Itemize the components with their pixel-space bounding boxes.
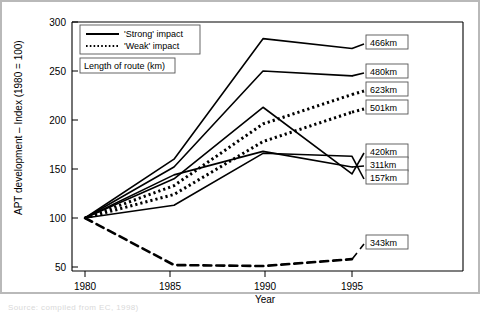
line-chart-svg: 300 250 200 150 100 50 APT development –…	[0, 0, 481, 315]
series-label-text-623km: 623km	[370, 85, 397, 95]
series-label-text-343km: 343km	[370, 238, 397, 248]
legend-length-of-route: Length of route (km)	[80, 58, 175, 73]
series-label-text-466km: 466km	[370, 38, 397, 48]
x-tick-label-1990: 1990	[254, 281, 277, 292]
y-tick-label-50: 50	[55, 262, 67, 273]
series-label-text-480km: 480km	[370, 67, 397, 77]
x-tick-label-1995: 1995	[341, 281, 364, 292]
series-label-text-157km: 157km	[370, 173, 397, 183]
y-axis-title: APT development – Index (1980 = 100)	[13, 40, 24, 215]
x-axis-title: Year	[255, 294, 276, 305]
y-tick-label-100: 100	[49, 213, 66, 224]
series-label-text-501km: 501km	[370, 103, 397, 113]
series-label-text-420km: 420km	[370, 147, 397, 157]
x-tick-label-1980: 1980	[74, 281, 97, 292]
figure-caption: Source: compiled from EC, 1998)	[8, 303, 139, 312]
y-tick-label-150: 150	[49, 164, 66, 175]
legend-impact: 'Strong' impact 'Weak' impact	[80, 25, 200, 54]
x-tick-label-1985: 1985	[159, 281, 182, 292]
series-label-text-311km: 311km	[370, 160, 396, 170]
legend-label-length: Length of route (km)	[84, 61, 165, 71]
y-tick-label-200: 200	[49, 115, 66, 126]
y-tick-label-250: 250	[49, 66, 66, 77]
legend-label-strong: 'Strong' impact	[124, 29, 183, 39]
chart-figure: 300 250 200 150 100 50 APT development –…	[0, 0, 481, 315]
legend-label-weak: 'Weak' impact	[124, 41, 180, 51]
y-tick-label-300: 300	[49, 17, 66, 28]
